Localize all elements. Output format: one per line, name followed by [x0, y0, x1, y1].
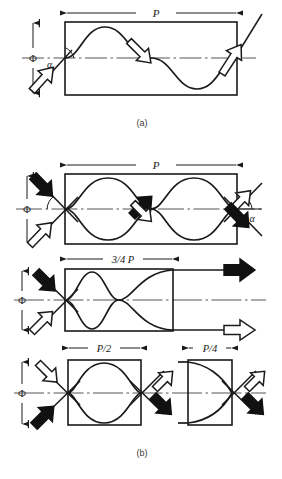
angle-alpha-a: α	[47, 48, 74, 70]
dimension-label-P-4-bbot: P/4	[202, 343, 218, 354]
panel-b-bottom: P/2 P/4 Φ	[14, 343, 271, 434]
inlet-arrow-hollow-bmid	[26, 305, 59, 338]
panel-caption-b: (b)	[112, 448, 172, 458]
helix-curve-bbot-left-upper	[68, 363, 141, 393]
dimension-halfP-bbot: P/2	[69, 343, 140, 354]
panel-a: P Φ α	[22, 7, 262, 98]
dimension-label-3-4P-bmid: 3/4 P	[111, 254, 135, 265]
inlet-arrow-hollow-a	[25, 61, 60, 97]
panel-b-middle: 3/4 P Φ	[14, 254, 266, 341]
dimension-label-P-2-bbot: P/2	[96, 343, 112, 354]
angle-label-alpha-right-btop: α	[249, 213, 255, 224]
helix-curve-bmid-lower	[65, 300, 173, 330]
outlet-arrow-solid-right-bbot	[238, 389, 271, 422]
outlet-arrow-solid-left-bbot	[146, 389, 179, 422]
outlet-arrow-hollow-right-bbot	[241, 365, 271, 395]
interior-arrow-hollow-a	[123, 35, 157, 69]
outlet-arrow-hollow-bmid	[224, 320, 255, 340]
dimension-pitch-a: P	[67, 7, 236, 19]
panel-caption-a: (a)	[112, 118, 172, 128]
dimension-label-P-a: P	[152, 7, 160, 19]
outlet-arrow-solid-bmid	[224, 259, 255, 281]
helix-curve-bmid-upper	[65, 270, 173, 300]
inlet-arrow-solid-bmid	[29, 265, 62, 298]
dimension-quarterP-bbot: P/4	[189, 343, 231, 354]
helix-curve-bbot-left-lower	[68, 393, 141, 423]
outlet-arrow-hollow-a	[214, 40, 248, 79]
helix-curve-bbot-right-upper	[188, 362, 232, 393]
helix-curve-bbot-right-lower	[188, 393, 232, 423]
dimension-label-P-btop: P	[152, 159, 160, 171]
technical-diagram: P Φ α	[0, 0, 282, 479]
panel-b-top: P Φ α α	[16, 159, 262, 252]
dimension-threequarterP-bmid: 3/4 P	[67, 254, 172, 265]
inlet-arrow-hollow-btop	[24, 216, 58, 251]
dimension-pitch-btop: P	[67, 159, 236, 171]
outlet-arrow-hollow-left-bbot	[149, 365, 179, 395]
